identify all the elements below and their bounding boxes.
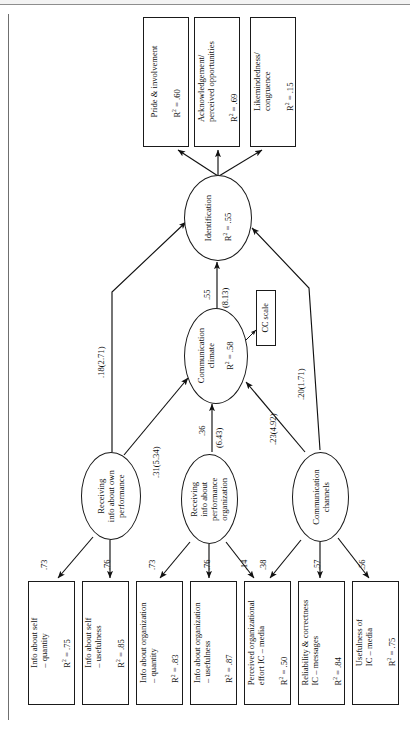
- coef-climate-to-identification-tvalue: (8.13): [221, 288, 230, 308]
- outcome-label: Acknowledgement/ perceived opportunities: [195, 42, 215, 123]
- coef-channels-to-eff-media: .38: [259, 560, 268, 570]
- edge-identification-to-pride: [178, 150, 218, 176]
- outcome-r2: R2 = .69: [228, 42, 239, 123]
- coef-channels-to-climate: .23(4.92): [268, 413, 278, 445]
- manifest-label: Info about self – quantity: [30, 618, 50, 668]
- coef-recvorg-to-eff-media: .14: [240, 560, 249, 570]
- manifest-label: Reliability & correctness IC – messages: [300, 600, 320, 686]
- edge-recvown-to-climate: [124, 378, 188, 455]
- coef-recvorg-to-climate-tvalue: (6.43): [215, 428, 224, 448]
- latent-ellipse-receiving-info-own-performance: Receiving info about own performance: [81, 452, 141, 540]
- manifest-r2: R2 = .85: [116, 618, 127, 668]
- latent-label: Communication climate: [196, 328, 216, 383]
- manifest-r2: R2 = .50: [278, 600, 289, 685]
- coef-recvorg-to-org-use: .76: [203, 560, 212, 570]
- coef-recvorg-to-org-qty: .73: [148, 560, 157, 570]
- manifest-box-info-organization-quantity: Info about organization – quantity R2 = …: [136, 581, 183, 705]
- coef-channels-to-use-media: .56: [358, 560, 367, 570]
- cc-scale-note-box: CC scale: [256, 290, 276, 346]
- latent-ellipse-communication-climate: Communication climate R2 = .58: [184, 308, 248, 404]
- manifest-box-info-self-quantity: Info about self – quantity R2 = .75: [28, 581, 75, 705]
- outcome-box-acknowledgement: Acknowledgement/ perceived opportunities…: [194, 17, 240, 147]
- outcome-box-pride: Pride & involvement R2 = .60: [143, 17, 189, 147]
- outcome-r2: R2 = .60: [172, 46, 183, 118]
- coef-channels-to-identification: .20(1.71): [296, 368, 306, 400]
- latent-ellipse-receiving-info-performance-organization: Receiving info about performance organiz…: [181, 454, 238, 544]
- coef-recvown-to-self-use: .76: [103, 560, 112, 570]
- edge-recvown-to-self-qty: [58, 537, 93, 578]
- manifest-box-perceived-organizational-effort-media: Perceived organizational effort IC – med…: [244, 581, 291, 705]
- manifest-box-usefulness-of-media: Usefulness of IC – media R2 = .75: [352, 581, 399, 705]
- coef-recvown-to-self-qty: .73: [40, 560, 49, 570]
- manifest-r2: R2 = .87: [224, 603, 235, 684]
- manifest-label: Usefulness of IC – media: [354, 619, 374, 666]
- manifest-box-info-organization-usefulness: Info about organization – usefulness R2 …: [190, 581, 237, 705]
- edge-recvown-to-identification: [112, 222, 186, 452]
- latent-r2: R2 = .58: [225, 328, 236, 383]
- manifest-r2: R2 = .84: [332, 600, 343, 686]
- outcome-label: Pride & involvement: [149, 46, 159, 118]
- outcome-r2: R2 = .15: [284, 53, 295, 112]
- latent-ellipse-communication-channels: Communication channels: [292, 452, 349, 542]
- edge-recvorg-to-org-qty: [160, 542, 190, 578]
- edge-channels-to-use-media: [338, 538, 369, 578]
- manifest-box-info-self-usefulness: Info about self – usefulness R2 = .85: [82, 581, 129, 705]
- edge-identification-to-likeminded: [219, 150, 262, 176]
- latent-label: Identification: [203, 195, 213, 241]
- manifest-box-reliability-correctness-messages: Reliability & correctness IC – messages …: [298, 581, 345, 705]
- latent-label: Receiving info about performance organiz…: [189, 477, 230, 520]
- coef-recvorg-to-climate: .36: [198, 426, 207, 436]
- manifest-label: Perceived organizational effort IC – med…: [246, 600, 266, 685]
- latent-label: Receiving info about own performance: [96, 470, 126, 522]
- manifest-label: Info about organization – quantity: [138, 603, 158, 684]
- manifest-label: Info about organization – usefulness: [192, 603, 212, 684]
- latent-ellipse-identification: Identification R2 = .55: [184, 175, 252, 261]
- manifest-r2: R2 = .83: [170, 603, 181, 684]
- coef-recvown-to-climate: .31(5.34): [151, 446, 161, 478]
- coef-recvown-to-identification: .18(2.71): [96, 346, 106, 378]
- outcome-box-likemindedness: Likemindedness/ congruence R2 = .15: [250, 17, 296, 147]
- latent-label: Communication channels: [310, 469, 330, 524]
- manifest-r2: R2 = .75: [62, 618, 73, 668]
- latent-r2: R2 = .55: [222, 195, 233, 241]
- edge-channels-to-eff-media: [270, 540, 301, 578]
- figure-canvas: Pride & involvement R2 = .60 Acknowledge…: [0, 0, 410, 736]
- outcome-label: Likemindedness/ congruence: [251, 53, 271, 112]
- manifest-label: Info about self – usefulness: [84, 618, 104, 668]
- manifest-r2: R2 = .75: [386, 619, 397, 666]
- coef-channels-to-rel-msg: .57: [313, 560, 322, 570]
- coef-climate-to-identification: .55: [203, 290, 212, 300]
- cc-scale-label: CC scale: [261, 303, 271, 332]
